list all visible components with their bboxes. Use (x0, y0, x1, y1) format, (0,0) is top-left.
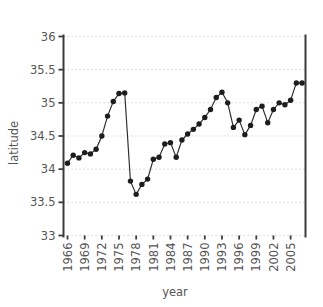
x-tick-label: 1975 (112, 243, 126, 272)
x-tick-label: 1993 (215, 243, 229, 272)
data-point (288, 97, 293, 102)
data-point (133, 192, 138, 197)
data-point (196, 121, 201, 126)
data-point (99, 133, 104, 138)
x-tick-label: 1990 (198, 243, 212, 272)
x-tick-label: 2005 (284, 243, 298, 272)
x-tick-label: 1984 (164, 243, 178, 272)
data-point (259, 103, 264, 108)
data-point (265, 120, 270, 125)
data-point (248, 123, 253, 128)
data-point (151, 157, 156, 162)
data-point (282, 102, 287, 107)
y-tick-label: 33.5 (30, 195, 56, 209)
data-point (139, 182, 144, 187)
data-point (294, 80, 299, 85)
x-tick-label: 1972 (95, 243, 109, 272)
x-axis-title: year (162, 285, 188, 299)
data-point (145, 176, 150, 181)
data-point (179, 137, 184, 142)
data-point (82, 150, 87, 155)
data-point (242, 132, 247, 137)
x-tick-label: 1987 (181, 243, 195, 272)
x-axis-ticks (68, 236, 291, 240)
y-tick-labels: 3333.53434.53535.536 (30, 30, 56, 243)
data-point (128, 178, 133, 183)
y-axis (59, 36, 64, 237)
data-point (271, 107, 276, 112)
y-tick-label: 33 (41, 229, 56, 243)
x-tick-label: 1969 (78, 243, 92, 272)
y-tick-label: 34 (41, 162, 56, 176)
x-tick-label: 1978 (129, 243, 143, 272)
x-tick-label: 1999 (249, 243, 263, 272)
data-point (162, 141, 167, 146)
chart-figure: 3333.53434.53535.536 1966196919721975197… (0, 0, 323, 307)
y-tick-label: 36 (41, 30, 56, 44)
y-tick-label: 34.5 (30, 129, 56, 143)
data-point (219, 90, 224, 95)
data-series-line (68, 83, 303, 194)
y-tick-label: 35.5 (30, 63, 56, 77)
y-tick-label: 35 (41, 96, 56, 110)
data-point (174, 155, 179, 160)
latitude-vs-year-line-chart: 3333.53434.53535.536 1966196919721975197… (0, 0, 323, 307)
data-point (88, 151, 93, 156)
data-point (254, 107, 259, 112)
data-point (185, 131, 190, 136)
data-point (276, 100, 281, 105)
x-tick-label: 1996 (232, 243, 246, 272)
data-point (71, 153, 76, 158)
x-tick-label: 1981 (147, 243, 161, 272)
x-tick-labels: 1966196919721975197819811984198719901993… (61, 243, 298, 272)
data-point (208, 107, 213, 112)
data-point (202, 115, 207, 120)
data-point (111, 99, 116, 104)
x-tick-label: 1966 (61, 243, 75, 272)
data-point (122, 90, 127, 95)
data-point (168, 140, 173, 145)
data-point (299, 80, 304, 85)
data-point (105, 113, 110, 118)
data-point (93, 147, 98, 152)
data-point (231, 125, 236, 130)
data-point (156, 155, 161, 160)
data-point (236, 117, 241, 122)
x-tick-label: 2002 (267, 243, 281, 272)
data-point (76, 155, 81, 160)
data-point (65, 161, 70, 166)
data-point (214, 95, 219, 100)
data-point (225, 100, 230, 105)
data-point (191, 127, 196, 132)
y-axis-title: latitude (7, 121, 21, 165)
data-point (116, 91, 121, 96)
